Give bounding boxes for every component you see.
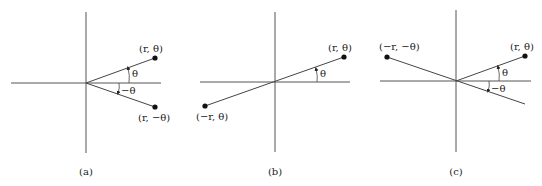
panel-b: θ (r, θ) (−r, θ) (b)	[196, 12, 352, 177]
angle-arc-icon	[488, 81, 489, 91]
panel-caption: (c)	[449, 166, 463, 177]
polar-coordinates-figure: θ −θ (r, θ) (r, −θ) (a) θ (r, θ) (−r, θ)…	[0, 0, 542, 186]
point-label: (r, θ)	[510, 41, 534, 52]
point-label: (r, −θ)	[138, 112, 170, 123]
panel-caption: (b)	[268, 166, 282, 177]
point-r-theta	[152, 55, 157, 60]
angle-label: −θ	[121, 85, 135, 96]
ray-r-theta	[456, 56, 525, 81]
point-r-theta	[341, 54, 346, 59]
ray-r-theta	[86, 58, 155, 83]
point-label: (−r, θ)	[196, 111, 228, 122]
point-label: (−r, −θ)	[379, 41, 420, 52]
point-label: (r, θ)	[139, 43, 163, 54]
angle-arc-icon	[118, 83, 119, 93]
angle-arc-icon	[128, 68, 129, 83]
panel-a: θ −θ (r, θ) (r, −θ) (a)	[11, 12, 170, 177]
angle-label: θ	[320, 68, 326, 79]
point-label: (r, θ)	[328, 42, 352, 53]
point-neg-r-neg-theta	[384, 54, 389, 59]
panel-caption: (a)	[79, 166, 93, 177]
point-r-theta	[522, 53, 527, 58]
point-r-neg-theta	[152, 104, 157, 109]
panel-c: θ −θ (r, θ) (−r, −θ) (c)	[379, 10, 534, 177]
angle-label: θ	[132, 68, 138, 79]
angle-arc-icon	[316, 69, 317, 82]
angle-label: θ	[502, 67, 508, 78]
point-neg-r-theta	[202, 103, 207, 108]
angle-arc-icon	[498, 67, 499, 81]
angle-label: −θ	[491, 83, 505, 94]
